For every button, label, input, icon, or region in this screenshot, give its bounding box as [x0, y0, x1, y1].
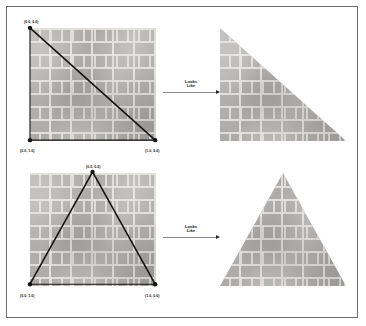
vertex-marker-apex [90, 170, 94, 174]
coord-label-apex: (0.5, 0.0) [86, 166, 100, 170]
edge-right-slant [93, 172, 156, 284]
arrow-line-bottom [163, 237, 219, 238]
vertex-marker-bottom-left [28, 282, 32, 286]
arrow-caption-line2: Like [185, 229, 197, 233]
panel-isosceles-triangle-demo: (0.5, 0.0) (0.0, 1.0) (1.0, 0.0) Looks L… [7, 7, 357, 317]
arrow-caption-bottom: Looks Like [184, 225, 198, 234]
arrow-head-icon-bottom [216, 235, 220, 239]
looks-like-arrow-bottom: Looks Like [163, 232, 219, 242]
coord-label-bottom-right-2: (1.0, 0.0) [145, 295, 159, 299]
vertex-marker-bottom-right [153, 282, 157, 286]
edge-left-slant [30, 172, 93, 284]
coord-label-bottom-left-2: (0.0, 1.0) [20, 295, 34, 299]
figure-frame: (0.0, 0.0) (0.0, 1.0) (1.0, 0.0) Looks L… [6, 6, 358, 318]
